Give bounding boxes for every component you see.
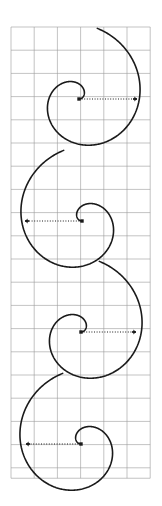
spiral-center-dot xyxy=(77,97,80,100)
spiral-center-dot xyxy=(79,442,82,445)
spiral-figure xyxy=(0,0,162,506)
spiral-center-dot xyxy=(79,330,82,333)
spiral-center-dot xyxy=(80,219,83,222)
figure-canvas xyxy=(0,0,162,506)
figure-background xyxy=(0,0,162,506)
